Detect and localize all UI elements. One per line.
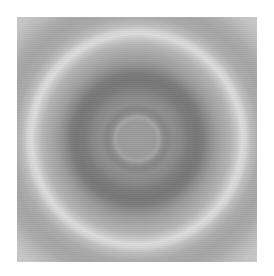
concentric-rings-image [17, 17, 257, 262]
image-grain-overlay [17, 17, 257, 262]
